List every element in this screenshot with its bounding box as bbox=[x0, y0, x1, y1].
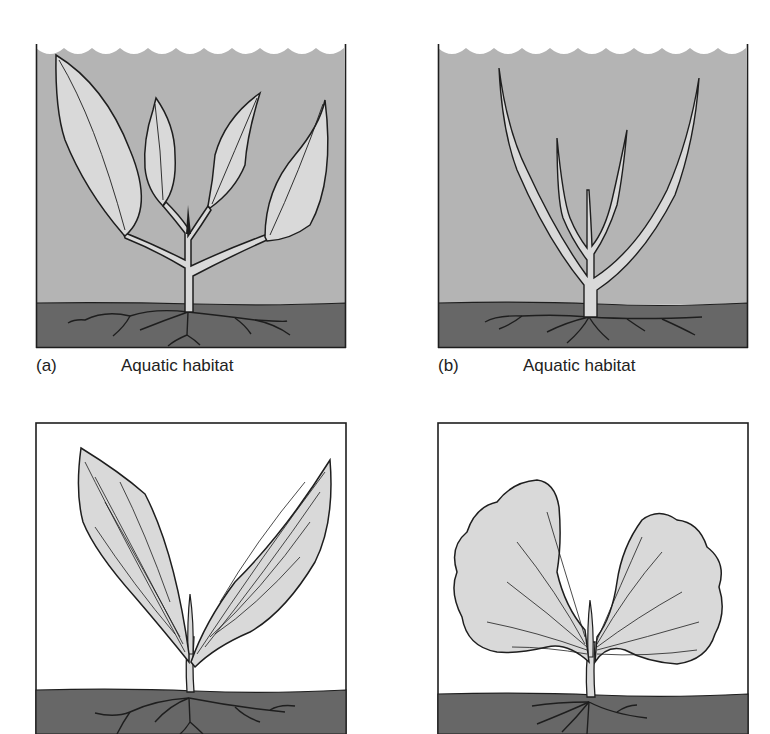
terrestrial-plant-lanceolate-leaves-illustration bbox=[35, 422, 347, 734]
habitat-label: Aquatic habitat bbox=[121, 356, 233, 376]
panel-letter: (a) bbox=[36, 356, 57, 376]
panel-d-terrestrial bbox=[437, 422, 749, 734]
aquatic-plant-broad-leaves-illustration bbox=[35, 40, 347, 350]
soil-region bbox=[36, 689, 346, 734]
habitat-label: Aquatic habitat bbox=[523, 356, 635, 376]
terrestrial-plant-fan-leaves-illustration bbox=[437, 422, 749, 734]
aquatic-plant-narrow-leaves-illustration bbox=[437, 40, 749, 350]
panel-c-terrestrial bbox=[35, 422, 347, 734]
panel-letter: (b) bbox=[438, 356, 459, 376]
soil-region bbox=[438, 693, 748, 734]
panel-b-aquatic bbox=[437, 40, 749, 350]
panel-a-aquatic bbox=[35, 40, 347, 350]
